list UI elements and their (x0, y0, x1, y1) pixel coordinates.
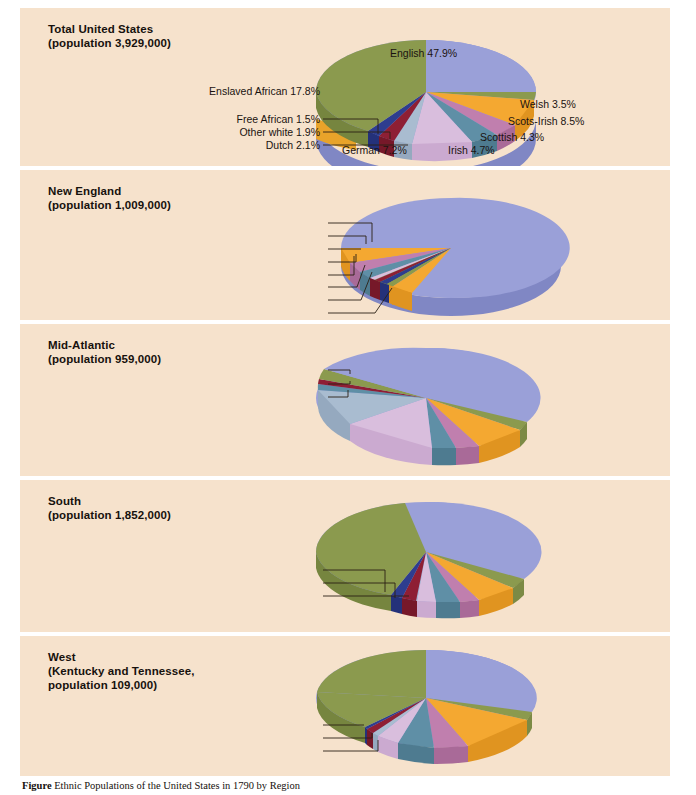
pie-svg (20, 636, 670, 776)
pie-slices (316, 502, 542, 618)
pie-slices (318, 348, 541, 466)
slice-label-enslaved-african: Enslaved African 17.8% (120, 85, 320, 97)
panel-west: West (Kentucky and Tennessee, population… (20, 636, 670, 776)
slice-label-dutch: Dutch 2.1% (140, 139, 320, 151)
slice-label-welsh: Welsh 3.5% (520, 98, 576, 110)
pie-svg (20, 324, 670, 476)
slice-label-german: German 7.2% (342, 144, 407, 156)
pie-slices (317, 650, 537, 764)
slice-label-english: English 47.9% (390, 47, 457, 59)
slice-label-other-white: Other white 1.9% (140, 126, 320, 138)
figure-page: Total United States (population 3,929,00… (0, 0, 696, 795)
slice-label-irish: Irish 4.7% (448, 144, 495, 156)
caption-text: Ethnic Populations of the United States … (54, 780, 300, 791)
panel-total-united-states: Total United States (population 3,929,00… (20, 8, 670, 166)
pie-chart-new-england (20, 170, 670, 320)
pie-chart-mid-atlantic (20, 324, 670, 476)
pie-chart-south (20, 480, 670, 632)
slice-label-free-african: Free African 1.5% (140, 113, 320, 125)
pie-svg (20, 480, 670, 632)
slice-label-scots-irish: Scots-Irish 8.5% (508, 115, 584, 127)
slice-label-scottish: Scottish 4.3% (480, 131, 544, 143)
pie-chart-total-united-states (20, 8, 670, 166)
caption-label: Figure (22, 780, 52, 791)
pie-chart-west (20, 636, 670, 776)
pie-svg (20, 170, 670, 320)
panel-new-england: New England (population 1,009,000) (20, 170, 670, 320)
figure-caption: Figure Ethnic Populations of the United … (22, 780, 682, 791)
pie-svg (20, 8, 670, 166)
panel-south: South (population 1,852,000) (20, 480, 670, 632)
panel-mid-atlantic: Mid-Atlantic (population 959,000) (20, 324, 670, 476)
